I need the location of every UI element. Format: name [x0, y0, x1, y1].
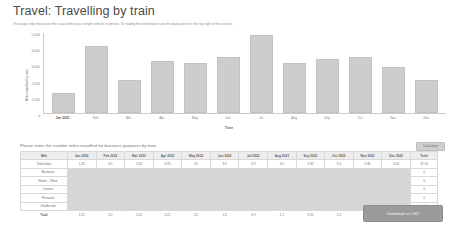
table-input-cell[interactable] [96, 194, 125, 203]
table-input-cell[interactable] [296, 194, 325, 203]
table-input-cell[interactable] [182, 177, 211, 186]
table-input-cell[interactable] [153, 168, 182, 177]
chart-bar-slot [179, 33, 212, 113]
table-body: Total miles1.254.22.053.253.13.54.93.13.… [21, 160, 438, 211]
table-input-cell[interactable] [125, 194, 154, 203]
chart-x-tick: Aug [278, 116, 311, 120]
table-input-cell[interactable] [268, 168, 297, 177]
table-input-cell[interactable] [268, 185, 297, 194]
table-input-cell[interactable] [239, 194, 268, 203]
chart-x-tick: Feb [79, 116, 112, 120]
table-input-cell[interactable] [382, 185, 411, 194]
chart-bar-slot [212, 33, 245, 113]
table-value-cell: 2.05 [382, 160, 411, 169]
table-input-cell[interactable] [125, 177, 154, 186]
table-input-cell[interactable] [96, 168, 125, 177]
table-input-cell[interactable] [325, 177, 354, 186]
chart-x-tick: Jun [211, 116, 244, 120]
table-input-cell[interactable] [325, 185, 354, 194]
table-input-cell[interactable] [182, 168, 211, 177]
table-input-cell[interactable] [96, 202, 125, 211]
table-column-header: Total [411, 152, 438, 160]
chart-bar [184, 63, 208, 113]
table-input-cell[interactable] [296, 185, 325, 194]
chart-bar [415, 80, 439, 113]
table-column-header: Sep 2022 [296, 152, 325, 160]
table-totals-cell: 3.1 [268, 211, 297, 220]
chart-x-axis-label: Time [10, 126, 448, 130]
table-input-cell[interactable] [68, 185, 97, 194]
table-input-cell[interactable] [382, 194, 411, 203]
table-input-cell[interactable] [125, 202, 154, 211]
table-input-cell[interactable] [239, 168, 268, 177]
calculate-button[interactable]: Calculate [416, 142, 445, 151]
table-input-cell[interactable] [325, 202, 354, 211]
table-input-cell[interactable] [325, 168, 354, 177]
table-input-cell[interactable] [353, 185, 382, 194]
table-input-cell[interactable] [239, 185, 268, 194]
table-input-cell[interactable] [125, 185, 154, 194]
table-input-cell[interactable] [68, 194, 97, 203]
table-input-cell[interactable] [382, 168, 411, 177]
chart-bar-slot [245, 33, 278, 113]
table-input-cell[interactable] [182, 194, 211, 203]
table-totals-cell: 3.5 [325, 211, 354, 220]
chart-y-tick: 3,000 [32, 65, 40, 69]
table-input-cell[interactable] [268, 202, 297, 211]
table-input-cell[interactable] [210, 202, 239, 211]
table-header: MileJan 2022Feb 2022Mar 2022Apr 2022May … [21, 152, 438, 160]
chart-y-tick: 5,000 [32, 33, 40, 37]
chart-bar [382, 67, 406, 113]
table-totals-cell: 4.2 [96, 211, 125, 220]
table-input-cell[interactable] [382, 177, 411, 186]
chart-x-tick: Dec [410, 116, 443, 120]
table-header-row: MileJan 2022Feb 2022Mar 2022Apr 2022May … [21, 152, 438, 160]
table-column-header: Jul 2022 [239, 152, 268, 160]
table-input-cell[interactable] [353, 177, 382, 186]
table-column-header: Mile [21, 152, 68, 160]
table-input-cell[interactable] [68, 168, 97, 177]
chart-bar-slot [311, 33, 344, 113]
table-totals-cell: 3.35 [296, 211, 325, 220]
chart-y-tick: 4,000 [32, 49, 40, 53]
table-input-cell[interactable] [268, 177, 297, 186]
table-input-cell[interactable] [353, 168, 382, 177]
table-input-cell[interactable] [296, 168, 325, 177]
table-input-cell[interactable] [210, 185, 239, 194]
table-input-cell[interactable] [296, 202, 325, 211]
table-input-cell[interactable] [96, 185, 125, 194]
table-input-cell[interactable] [68, 202, 97, 211]
table-column-header: Nov 2022 [353, 152, 382, 160]
table-input-cell[interactable] [153, 202, 182, 211]
download-csv-button[interactable]: Download as CSV [363, 205, 443, 222]
table-input-cell[interactable] [125, 168, 154, 177]
chart-x-tick: Jan 2022 [46, 116, 79, 120]
table-input-cell[interactable] [68, 177, 97, 186]
table-input-cell[interactable] [182, 202, 211, 211]
chart-x-tick: Nov [377, 116, 410, 120]
table-input-cell[interactable] [210, 177, 239, 186]
table-input-cell[interactable] [153, 177, 182, 186]
table-input-cell[interactable] [239, 202, 268, 211]
table-input-cell[interactable] [96, 177, 125, 186]
table-column-header: Jan 2022 [68, 152, 97, 160]
table-value-cell: 3.25 [153, 160, 182, 169]
table-input-cell[interactable] [182, 185, 211, 194]
table-input-cell[interactable] [210, 194, 239, 203]
page-root: Travel: Travelling by train This page on… [0, 0, 458, 231]
table-input-cell[interactable] [296, 177, 325, 186]
table-row-total: 37.10 [411, 160, 438, 169]
table-value-cell: 4.9 [239, 160, 268, 169]
table-input-cell[interactable] [268, 194, 297, 203]
chart-x-tick: Apr [145, 116, 178, 120]
table-input-cell[interactable] [325, 194, 354, 203]
table-input-cell[interactable] [239, 177, 268, 186]
table-input-cell[interactable] [153, 185, 182, 194]
table-column-header: Feb 2022 [96, 152, 125, 160]
table-input-cell[interactable] [353, 194, 382, 203]
chart-bar [85, 46, 109, 113]
table-input-cell[interactable] [210, 168, 239, 177]
table-totals-cell: 3.1 [182, 211, 211, 220]
table-input-cell[interactable] [153, 194, 182, 203]
table-row-label: Home - Office [21, 177, 68, 186]
